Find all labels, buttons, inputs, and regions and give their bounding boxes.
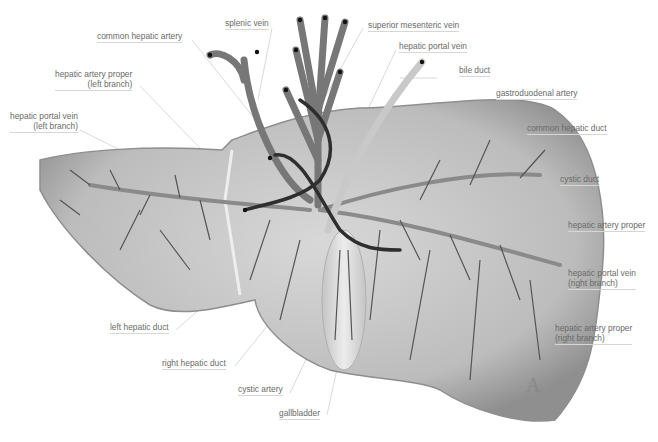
label-text: splenic vein (225, 18, 269, 28)
label-text: right hepatic duct (162, 358, 226, 368)
label-text: cystic artery (238, 384, 283, 394)
label-right-hepatic-duct: right hepatic duct (162, 358, 226, 370)
label-text: bile duct (459, 65, 490, 75)
label-text: hepatic portal vein (10, 111, 78, 121)
label-text: hepatic artery proper (55, 69, 132, 79)
label-splenic-vein: splenic vein (225, 18, 269, 30)
label-text: common hepatic artery (97, 31, 182, 41)
label-common-hepatic-duct: common hepatic duct (527, 123, 607, 135)
label-text: hepatic artery proper (555, 323, 632, 333)
label-hepatic-artery-proper-right: hepatic artery proper(right branch) (555, 323, 632, 345)
label-common-hepatic-artery: common hepatic artery (97, 31, 182, 43)
liver (40, 100, 604, 421)
liver-illustration (0, 0, 658, 442)
label-text: (right branch) (555, 333, 632, 343)
label-hepatic-artery-proper-left: hepatic artery proper(left branch) (55, 69, 132, 91)
label-text: hepatic artery proper (568, 220, 645, 230)
label-text: gastroduodenal artery (496, 88, 577, 98)
label-cystic-duct: cystic duct (560, 174, 599, 186)
label-hepatic-portal-vein: hepatic portal vein (399, 41, 467, 53)
label-bile-duct: bile duct (459, 65, 490, 77)
label-hepatic-portal-vein-left: hepatic portal vein(left branch) (10, 111, 78, 133)
label-text: (left branch) (10, 121, 78, 131)
gallbladder-shape (322, 230, 366, 370)
label-hepatic-artery-proper: hepatic artery proper (568, 220, 645, 232)
label-text: common hepatic duct (527, 123, 607, 133)
label-hepatic-portal-vein-right: hepatic portal vein(right branch) (568, 268, 636, 290)
label-text: gallbladder (279, 408, 320, 418)
label-text: cystic duct (560, 174, 599, 184)
label-text: (right branch) (568, 278, 636, 288)
label-text: (left branch) (55, 79, 132, 89)
label-left-hepatic-duct: left hepatic duct (110, 322, 169, 334)
label-superior-mesenteric-vein: superior mesenteric vein (368, 20, 459, 32)
label-text: hepatic portal vein (568, 268, 636, 278)
label-text: superior mesenteric vein (368, 20, 459, 30)
label-text: left hepatic duct (110, 322, 169, 332)
panel-letter: A (526, 374, 540, 397)
label-text: hepatic portal vein (399, 41, 467, 51)
liver-diagram: common hepatic artery splenic vein super… (0, 0, 658, 442)
label-gallbladder: gallbladder (279, 408, 320, 420)
label-cystic-artery: cystic artery (238, 384, 283, 396)
label-gastroduodenal-artery: gastroduodenal artery (496, 88, 577, 100)
